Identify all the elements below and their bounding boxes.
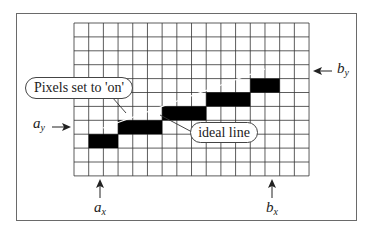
label-bx-base: b <box>266 199 274 215</box>
pixel-on <box>206 93 250 107</box>
label-bx: bx <box>266 199 278 217</box>
grid-lines <box>74 23 309 176</box>
label-ax-base: a <box>94 199 102 215</box>
pixel-on <box>118 120 162 134</box>
pixel-on <box>250 79 279 93</box>
label-ay-sub: y <box>41 122 45 133</box>
pixel-on <box>162 106 206 120</box>
arrow-ay-icon <box>52 123 71 131</box>
arrow-by-icon <box>313 67 332 75</box>
label-bx-sub: x <box>274 206 278 217</box>
label-by: by <box>337 60 349 78</box>
arrow-ax-icon <box>96 179 104 198</box>
callout-ideal-line: ideal line <box>190 122 258 143</box>
label-ay: ay <box>33 115 45 133</box>
label-by-base: b <box>337 60 345 76</box>
label-ay-base: a <box>33 115 41 131</box>
label-ax: ax <box>94 199 106 217</box>
callout-pixels-set-on: Pixels set to 'on' <box>25 77 133 99</box>
callout-pixels-text: Pixels set to 'on' <box>34 80 124 95</box>
callout-leader-pixels <box>112 97 126 113</box>
pixel-on <box>89 134 118 148</box>
callout-ideal-line-text: ideal line <box>198 125 250 140</box>
pixel-grid <box>0 0 373 230</box>
label-ax-sub: x <box>102 206 106 217</box>
arrow-bx-icon <box>268 179 276 198</box>
label-by-sub: y <box>345 67 349 78</box>
